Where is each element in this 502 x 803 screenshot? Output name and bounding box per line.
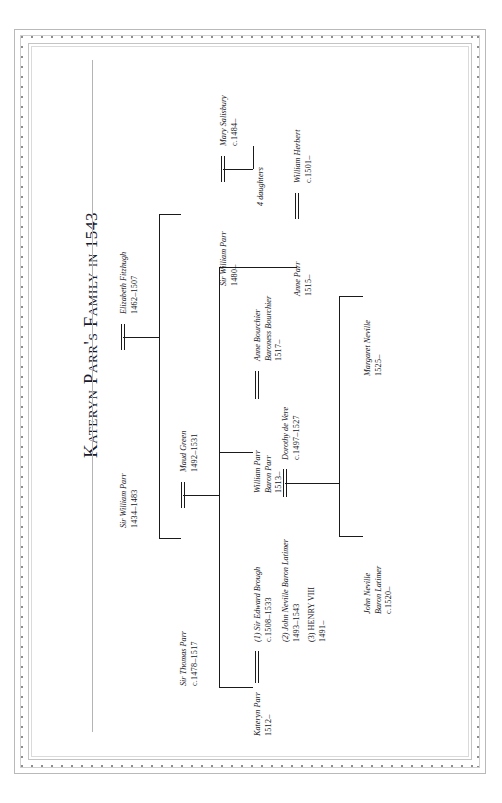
marriage-bar-kparr-brough: [255, 651, 259, 683]
node-name: (3) HENRY VIII: [307, 587, 318, 642]
page-title-main: Kateryn Parr's Family: [80, 272, 101, 458]
descent-branch-to-thomas-parr: [159, 538, 181, 539]
marriage-bar-aparr-wherb: [295, 193, 299, 219]
node-dates: c.1520–: [384, 566, 395, 614]
node-dates: c.1497–1527: [292, 407, 303, 460]
node-dates: 1491–: [318, 587, 329, 642]
node-dates: 1515–: [304, 262, 315, 296]
descent-sibling-bar-thomas-maud: [219, 267, 220, 687]
node-dates: c.1484–: [230, 95, 241, 146]
page-title: Kateryn Parr's Family in 1543: [80, 125, 102, 545]
node-name: Dorothy de Vere: [281, 407, 292, 460]
family-tree-diagram: Kateryn Parr's Family in 1543 Sir Willia…: [31, 46, 469, 757]
node-dates: 1517–: [274, 296, 285, 361]
node-title: Baron Latimer: [374, 566, 385, 614]
node-name: John Neville: [363, 566, 374, 614]
descent-branch-to-john-neville-c1520: [339, 536, 363, 537]
node-dates: c.1508–1533: [264, 567, 275, 642]
node-name: Anne Parr: [293, 262, 304, 296]
node-name: Kateryn Parr: [253, 692, 264, 736]
node-dates: 1480–: [230, 231, 241, 286]
node-name: Margaret Neville: [363, 320, 374, 376]
descent-stem-4-daughters: [223, 169, 253, 170]
descent-stem-jnev1-dvere: [285, 483, 339, 484]
node-dates: 1492–1531: [190, 431, 201, 472]
node-name: Maud Green: [179, 431, 190, 472]
descent-branch-to-kateryn-parr: [219, 687, 253, 688]
node-dates: c.1501–: [304, 130, 315, 183]
node-name: William Herbert: [293, 130, 304, 183]
node-title: Baron Parr: [264, 450, 275, 493]
node-dates: c.1478–1517: [190, 631, 201, 686]
node-dates: 1493–1543: [292, 539, 303, 642]
descent-stem-thomas-maud: [183, 495, 219, 496]
node-dates: 1434–1483: [130, 473, 141, 528]
descent-sibling-bar-gen1: [159, 214, 160, 538]
node-title: Baroness Bourchier: [264, 296, 275, 361]
node-dates: 1462–1507: [130, 252, 141, 314]
descent-sibling-bar-neville: [339, 296, 340, 536]
node-name: Anne Bourchier: [253, 296, 264, 361]
page-canvas: Kateryn Parr's Family in 1543 Sir Willia…: [0, 0, 502, 803]
node-name: Elizabeth Fitzhugh: [119, 252, 130, 314]
node-dates: 1525–: [374, 320, 385, 376]
descent-branch-to-william-parr-1513: [219, 452, 253, 453]
node-label: 4 daughters: [256, 167, 267, 206]
node-name: (2) John Neville Baron Latimer: [281, 539, 292, 642]
descent-bar-4-daughters: [253, 146, 254, 169]
descent-branch-to-sir-william-parr-1480: [159, 214, 181, 215]
node-name: (1) Sir Edward Brough: [253, 567, 264, 642]
node-name: Sir William Parr: [119, 473, 130, 528]
node-name: Sir William Parr: [219, 231, 230, 286]
descent-stem-gen1: [123, 337, 159, 338]
node-name: William Parr: [253, 450, 264, 493]
descent-branch-to-margaret-neville: [339, 296, 363, 297]
node-name: Mary Salisbury: [219, 95, 230, 146]
title-divider-rule: [92, 60, 93, 732]
node-name: Sir Thomas Parr: [179, 631, 190, 686]
marriage-bar-wparr3-abourch: [255, 371, 259, 399]
node-dates: 1512–: [264, 692, 275, 736]
